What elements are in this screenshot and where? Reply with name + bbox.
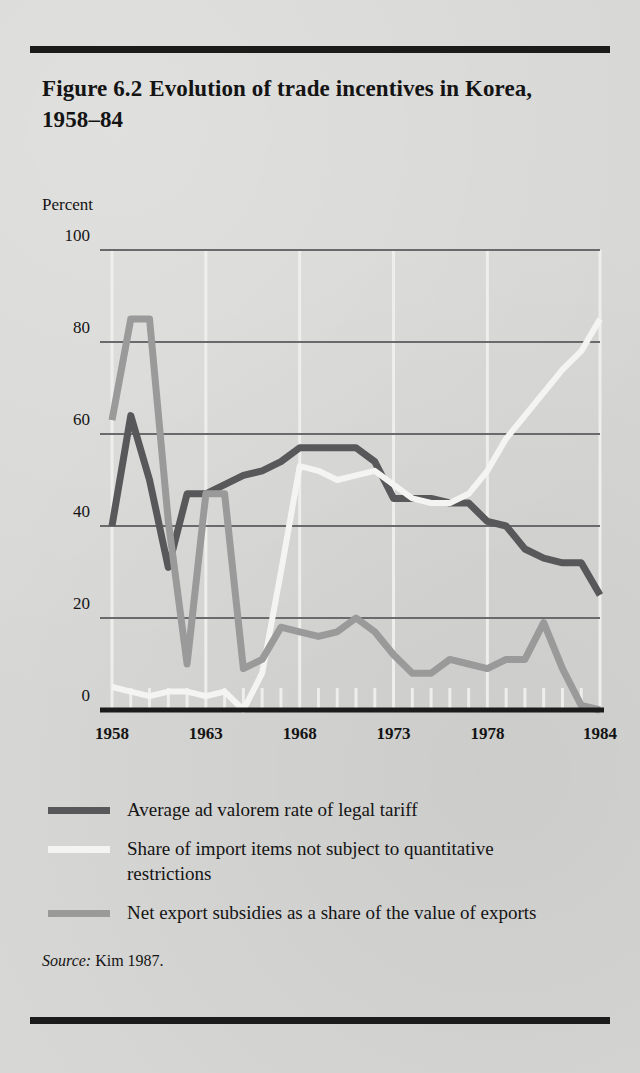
legend-item: Share of import items not subject to qua…: [48, 837, 608, 886]
x-tick-label: 1978: [470, 724, 504, 743]
y-tick-label: 20: [73, 594, 90, 613]
legend-label: Average ad valorem rate of legal tariff: [127, 798, 417, 822]
legend-label: Share of import items not subject to qua…: [127, 837, 557, 886]
x-tick-label: 1968: [283, 724, 317, 743]
legend-swatch-tariff: [48, 807, 110, 814]
legend-swatch-import-share: [48, 846, 110, 853]
series-line: [112, 416, 600, 595]
y-tick-label: 100: [65, 226, 91, 245]
source-line: Source: Kim 1987.: [42, 952, 164, 970]
figure-number: Figure 6.2: [42, 76, 142, 101]
figure-page: Figure 6.2Evolution of trade incentives …: [0, 0, 640, 1073]
legend-item: Net export subsidies as a share of the v…: [48, 901, 608, 925]
y-tick-label: 40: [73, 502, 90, 521]
x-tick-label: 1963: [189, 724, 223, 743]
y-tick-label: 80: [73, 318, 90, 337]
y-tick-label: 0: [82, 686, 91, 705]
series-line: [112, 319, 600, 710]
legend-item: Average ad valorem rate of legal tariff: [48, 798, 608, 822]
source-label: Source:: [42, 952, 91, 969]
legend-swatch-subsidies: [48, 910, 110, 917]
y-tick-label: 60: [73, 410, 90, 429]
x-tick-label: 1984: [583, 724, 618, 743]
chart-legend: Average ad valorem rate of legal tariff …: [48, 798, 608, 940]
source-text: Kim 1987.: [95, 952, 163, 969]
x-tick-label: 1973: [377, 724, 411, 743]
x-tick-label: 1958: [95, 724, 129, 743]
series-line: [112, 319, 600, 710]
top-rule: [30, 46, 610, 53]
page-title: Figure 6.2Evolution of trade incentives …: [42, 74, 572, 135]
legend-label: Net export subsidies as a share of the v…: [127, 901, 536, 925]
bottom-rule: [30, 1017, 610, 1024]
y-axis-unit-label: Percent: [42, 196, 93, 213]
